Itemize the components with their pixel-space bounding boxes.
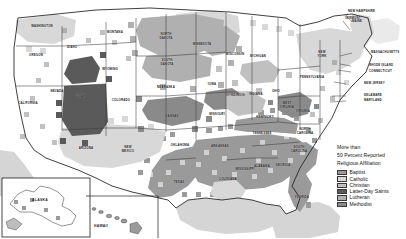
legend-label: Methodist (350, 202, 372, 207)
legend-item-list: BaptistCatholicChristianLatter-Day Saint… (337, 170, 405, 208)
legend-swatch-catholic (337, 176, 347, 181)
legend-swatch-baptist (337, 170, 347, 175)
legend-label: Christian (350, 183, 370, 188)
hawaii-inset (86, 196, 160, 238)
legend-swatch-christian (337, 183, 347, 188)
legend-item: Methodist (337, 201, 405, 207)
legend-label: Lutheran (350, 195, 370, 200)
alaska-inset (2, 178, 90, 237)
legend-label: Latter-Day Saints (350, 189, 389, 194)
legend-label: Catholic (350, 177, 368, 182)
legend-swatch-lutheran (337, 195, 347, 200)
legend-swatch-latter-day-saints (337, 189, 347, 194)
legend-title: More than 50 Percent Reported Religious … (337, 143, 405, 167)
map-legend: More than 50 Percent Reported Religious … (337, 143, 405, 207)
legend-swatch-methodist (337, 202, 347, 207)
religious-affiliation-map: WASHINGTONOREGONCALIFORNIANEVADAIDAHOMON… (0, 0, 406, 239)
legend-label: Baptist (350, 170, 366, 175)
